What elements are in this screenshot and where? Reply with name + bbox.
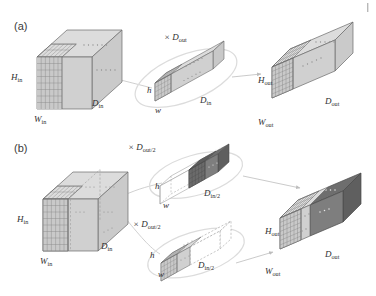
figure-canvas: (a) (b) Hin Win Din × Dout h w Din <box>0 0 376 296</box>
svg-text:w: w <box>158 269 164 279</box>
svg-text:h: h <box>150 250 155 260</box>
corner-mark-icon <box>367 3 368 12</box>
svg-text:h: h <box>155 181 160 191</box>
svg-text:w: w <box>155 105 161 115</box>
panel-label-b: (b) <box>14 142 27 154</box>
svg-text:h: h <box>147 85 152 95</box>
svg-text:w: w <box>163 200 169 210</box>
panel-label-a: (a) <box>14 20 27 32</box>
